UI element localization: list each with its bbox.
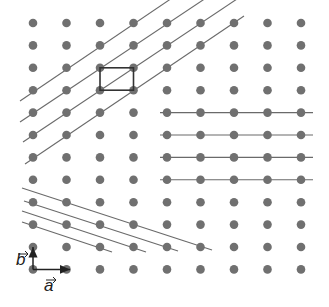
lattice-point — [230, 108, 239, 117]
lattice-point — [196, 265, 205, 274]
lattice-line-diagonal-down — [22, 188, 212, 250]
lattice-point — [263, 198, 272, 207]
lattice-point — [163, 243, 172, 252]
lattice-point — [96, 198, 105, 207]
lattice-point — [230, 64, 239, 73]
lattice-line-diagonal-down — [22, 211, 146, 252]
lattice-point — [62, 131, 71, 140]
lattice-point — [96, 131, 105, 140]
lattice-point — [196, 19, 205, 28]
lattice-point — [230, 41, 239, 50]
lattice-point — [230, 153, 239, 162]
lattice-point — [29, 176, 38, 185]
lattice-point — [297, 64, 306, 73]
lattice-point — [196, 131, 205, 140]
lattice-point — [129, 131, 138, 140]
lattice-point — [129, 198, 138, 207]
lattice-point — [263, 131, 272, 140]
lattice-point — [263, 64, 272, 73]
lattice-point — [297, 176, 306, 185]
lattice-point — [163, 64, 172, 73]
lattice-point — [297, 19, 306, 28]
lattice-point — [263, 176, 272, 185]
lattice-point — [129, 243, 138, 252]
lattice-line-diagonal-up — [20, 0, 178, 101]
lattice-point — [29, 131, 38, 140]
lattice-point — [29, 86, 38, 95]
lattice-point — [96, 108, 105, 117]
lattice-point — [297, 108, 306, 117]
lattice-point — [62, 41, 71, 50]
lattice-point — [62, 86, 71, 95]
lattice-point — [62, 153, 71, 162]
lattice-point — [29, 64, 38, 73]
lattice-point — [163, 220, 172, 229]
lattice-point — [129, 108, 138, 117]
lattice-point — [297, 265, 306, 274]
lattice-point — [230, 19, 239, 28]
lattice-point — [62, 220, 71, 229]
lattice-line-diagonal-up — [20, 0, 212, 122]
lattice-point — [230, 265, 239, 274]
lattice-point — [163, 19, 172, 28]
lattice-point — [163, 265, 172, 274]
lattice-point — [62, 19, 71, 28]
lattice-point — [62, 64, 71, 73]
lattice-point — [230, 86, 239, 95]
lattice-point — [297, 220, 306, 229]
lattice-point — [96, 41, 105, 50]
lattice-point — [62, 108, 71, 117]
lattice-point — [263, 265, 272, 274]
lattice-point — [297, 131, 306, 140]
lattice-point — [196, 243, 205, 252]
lattice-point — [129, 220, 138, 229]
lattice-point — [263, 19, 272, 28]
lattice-point — [96, 243, 105, 252]
lattice-point — [263, 243, 272, 252]
lattice-point — [196, 64, 205, 73]
vector-b-label: b — [16, 250, 25, 270]
lattice-point — [230, 220, 239, 229]
lattice-point — [230, 176, 239, 185]
lattice-point — [96, 265, 105, 274]
lattice-point — [263, 41, 272, 50]
lattice-point — [163, 41, 172, 50]
lattice-point — [163, 153, 172, 162]
lattice-point — [297, 153, 306, 162]
lattice-canvas — [0, 0, 329, 307]
lattice-point — [263, 108, 272, 117]
lattice-point — [163, 86, 172, 95]
lattice-point — [263, 153, 272, 162]
lattice-point — [29, 220, 38, 229]
lattice-point — [29, 198, 38, 207]
lattice-point — [96, 176, 105, 185]
vector-a-label: a — [44, 276, 53, 296]
lattice-point — [163, 176, 172, 185]
lattice-point — [196, 86, 205, 95]
lattice-point — [263, 86, 272, 95]
lattice-point — [96, 153, 105, 162]
lattice-point — [230, 243, 239, 252]
lattice-point — [96, 19, 105, 28]
lattice-point — [196, 108, 205, 117]
lattice-point — [297, 86, 306, 95]
lattice-point — [96, 220, 105, 229]
lattice-point — [196, 198, 205, 207]
lattice-diagram: b a — [0, 0, 329, 307]
lattice-point — [129, 265, 138, 274]
lattice-point — [263, 220, 272, 229]
lattice-point — [196, 220, 205, 229]
lattice-point — [297, 41, 306, 50]
lattice-point — [29, 41, 38, 50]
lattice-point — [163, 108, 172, 117]
lattice-point — [297, 198, 306, 207]
lattice-point — [62, 198, 71, 207]
lattice-point — [196, 176, 205, 185]
lattice-point — [196, 153, 205, 162]
lattice-point — [62, 243, 71, 252]
lattice-point — [129, 176, 138, 185]
lattice-point — [297, 243, 306, 252]
lattice-point — [29, 19, 38, 28]
lattice-point — [129, 19, 138, 28]
lattice-point — [129, 153, 138, 162]
